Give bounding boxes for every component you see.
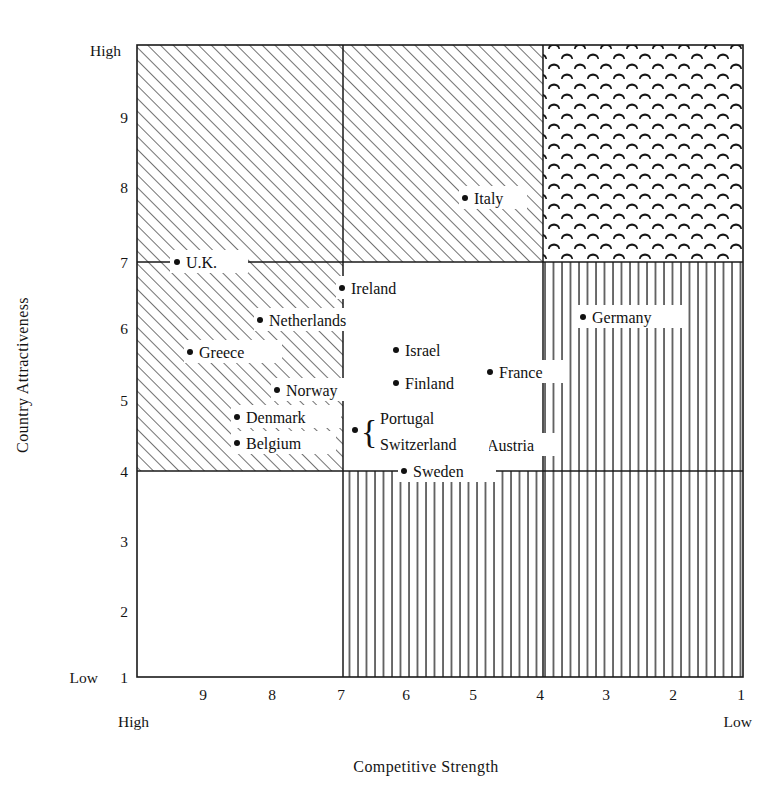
y-tick-1: 1	[120, 669, 128, 686]
region-diagonal-hatch-upper	[137, 45, 543, 262]
point-label-israel: Israel	[405, 342, 441, 359]
x-axis-title: Competitive Strength	[353, 758, 498, 776]
y-tick-4: 4	[120, 463, 128, 480]
nine-box-matrix-chart: 9 8 7 6 5 4 3 2 1 High Low 9 8 7 6 5 4 3…	[0, 0, 783, 795]
point-label-netherlands: Netherlands	[269, 312, 346, 329]
x-tick-4: 4	[536, 686, 544, 703]
y-tick-3: 3	[120, 533, 128, 550]
point-marker	[339, 285, 345, 291]
point-marker	[234, 440, 240, 446]
x-axis-low-word: Low	[724, 713, 753, 730]
data-point-norway[interactable]: Norway	[271, 378, 369, 401]
y-tick-5: 5	[120, 392, 128, 409]
x-tick-9: 9	[199, 686, 207, 703]
data-point-france[interactable]: France	[484, 360, 564, 383]
point-marker	[393, 347, 399, 353]
y-tick-6: 6	[120, 320, 128, 337]
point-label-sweden: Sweden	[413, 463, 464, 480]
point-label-finland: Finland	[405, 375, 454, 392]
point-label-italy: Italy	[474, 190, 503, 208]
data-point-portugal-switzerland[interactable]: { Portugal Switzerland	[349, 406, 489, 454]
point-label-ireland: Ireland	[351, 280, 396, 297]
y-tick-7: 7	[120, 254, 128, 271]
y-axis-low-word: Low	[70, 669, 99, 686]
data-point-israel[interactable]: Israel	[390, 338, 464, 361]
point-marker	[187, 349, 193, 355]
point-label-france: France	[499, 364, 543, 381]
x-tick-1: 1	[737, 686, 745, 703]
data-point-greece[interactable]: Greece	[184, 340, 282, 363]
region-arc-scales-harvest	[543, 45, 743, 262]
figure-canvas: 9 8 7 6 5 4 3 2 1 High Low 9 8 7 6 5 4 3…	[0, 0, 783, 795]
point-marker	[393, 380, 399, 386]
point-marker	[487, 369, 493, 375]
x-axis-high-word: High	[118, 713, 149, 730]
data-point-denmark[interactable]: Denmark	[231, 405, 341, 428]
point-label-norway: Norway	[286, 382, 338, 400]
point-label-germany: Germany	[592, 309, 652, 327]
curly-brace-icon: {	[361, 413, 377, 450]
x-tick-8: 8	[268, 686, 276, 703]
y-tick-2: 2	[120, 603, 128, 620]
data-point-belgium[interactable]: Belgium	[231, 431, 336, 454]
point-marker	[274, 387, 280, 393]
point-label-uk: U.K.	[186, 254, 217, 271]
point-marker	[462, 195, 468, 201]
point-marker	[401, 468, 407, 474]
x-tick-5: 5	[469, 686, 477, 703]
data-point-sweden[interactable]: Sweden	[398, 459, 496, 482]
point-label-greece: Greece	[199, 344, 244, 361]
data-point-ireland[interactable]: Ireland	[336, 276, 424, 299]
x-tick-6: 6	[402, 686, 410, 703]
point-label-belgium: Belgium	[246, 435, 302, 453]
point-marker	[174, 259, 180, 265]
point-label-denmark: Denmark	[246, 409, 306, 426]
point-label-portugal: Portugal	[380, 410, 435, 428]
data-point-italy[interactable]: Italy	[459, 186, 527, 209]
point-label-austria: Austria	[487, 437, 534, 454]
point-marker	[257, 317, 263, 323]
y-axis-title: Country Attractiveness	[14, 297, 32, 453]
data-point-germany[interactable]: Germany	[577, 305, 683, 328]
data-point-finland[interactable]: Finland	[390, 371, 474, 394]
region-vertical-hatch-lower	[343, 471, 543, 677]
point-marker	[352, 427, 358, 433]
y-axis-tick-labels: 9 8 7 6 5 4 3 2 1	[120, 109, 128, 686]
point-marker	[234, 414, 240, 420]
x-tick-3: 3	[602, 686, 610, 703]
y-tick-8: 8	[120, 179, 128, 196]
y-axis-high-word: High	[90, 42, 121, 59]
point-label-switzerland: Switzerland	[380, 436, 456, 453]
x-tick-2: 2	[669, 686, 677, 703]
data-point-uk[interactable]: U.K.	[170, 250, 248, 273]
point-marker	[580, 314, 586, 320]
x-tick-7: 7	[337, 686, 345, 703]
x-axis-tick-labels: 9 8 7 6 5 4 3 2 1	[199, 686, 745, 703]
y-tick-9: 9	[120, 109, 128, 126]
data-point-netherlands[interactable]: Netherlands	[254, 308, 404, 331]
